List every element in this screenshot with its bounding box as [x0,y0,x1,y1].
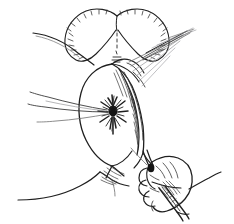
instrument-joint-hinge [148,164,155,172]
surgical-repair-line-drawing [0,0,234,224]
medical-illustration-canvas [0,0,234,224]
